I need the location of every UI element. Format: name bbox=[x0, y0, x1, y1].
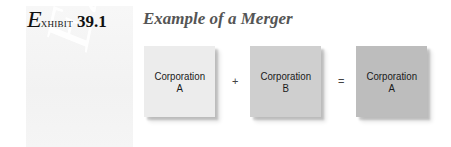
corporation-a-box: Corporation A bbox=[144, 46, 215, 117]
exhibit-label: E xhibit 39.1 bbox=[27, 7, 107, 32]
box-label-line2: A bbox=[388, 82, 394, 94]
exhibit-script-letter: E bbox=[27, 7, 42, 31]
box-label-line1: Corporation bbox=[154, 70, 205, 82]
box-label-line2: A bbox=[176, 82, 182, 94]
box-label-line1: Corporation bbox=[366, 70, 417, 82]
merged-corporation-a-box: Corporation A bbox=[356, 46, 427, 117]
exhibit-word: xhibit bbox=[41, 15, 73, 31]
equals-operator: = bbox=[338, 76, 344, 87]
box-label-line2: B bbox=[282, 82, 288, 94]
corporation-b-box: Corporation B bbox=[250, 46, 321, 117]
plus-operator: + bbox=[232, 76, 238, 87]
exhibit-number: 39.1 bbox=[77, 12, 107, 32]
box-label-line1: Corporation bbox=[260, 70, 311, 82]
exhibit-title: Example of a Merger bbox=[143, 9, 293, 29]
